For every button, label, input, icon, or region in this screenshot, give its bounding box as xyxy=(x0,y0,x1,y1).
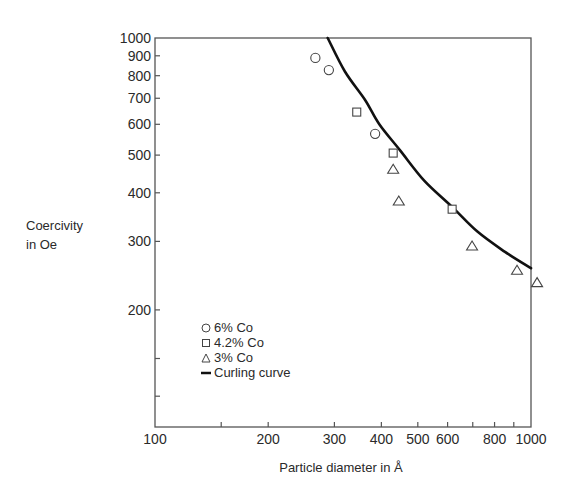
legend-item-6pct-co: 6% Co xyxy=(198,320,291,335)
circle-marker xyxy=(371,129,380,138)
chart-canvas: 2003004005006007008009001000 10020030040… xyxy=(0,0,582,496)
x-axis-label: Particle diameter in Å xyxy=(0,460,582,475)
y-tick-label: 700 xyxy=(128,90,152,106)
data-markers xyxy=(311,53,543,286)
y-tick-label: 1000 xyxy=(120,30,151,46)
y-axis-label-line1: Coercivity xyxy=(26,216,83,235)
legend-label: 4.2% Co xyxy=(214,335,264,350)
square-marker xyxy=(448,205,456,213)
x-tick-label: 600 xyxy=(436,431,460,447)
legend: 6% Co 4.2% Co 3% Co Curling curve xyxy=(198,320,291,380)
legend-item-3pct-co: 3% Co xyxy=(198,350,291,365)
circle-marker xyxy=(311,53,320,62)
y-tick-label: 800 xyxy=(128,68,152,84)
x-tick-label: 200 xyxy=(257,431,281,447)
x-tick-label: 1000 xyxy=(515,431,546,447)
y-axis-label-line2: in Oe xyxy=(26,235,83,254)
x-tick-label: 400 xyxy=(370,431,394,447)
triangle-marker xyxy=(393,196,404,205)
y-tick-label: 300 xyxy=(128,233,152,249)
x-tick-label: 500 xyxy=(406,431,430,447)
legend-item-4-2pct-co: 4.2% Co xyxy=(198,335,291,350)
square-marker xyxy=(389,149,397,157)
y-tick-label: 600 xyxy=(128,116,152,132)
y-tick-label: 200 xyxy=(128,302,152,318)
x-tick-label: 100 xyxy=(143,431,167,447)
curling-curve-line xyxy=(328,38,531,268)
x-tick-label: 300 xyxy=(323,431,347,447)
triangle-marker xyxy=(512,265,523,274)
legend-label: 3% Co xyxy=(214,350,253,365)
circle-marker xyxy=(324,65,333,74)
y-axis-label: Coercivity in Oe xyxy=(26,216,83,254)
triangle-marker xyxy=(467,241,478,250)
y-tick-label: 900 xyxy=(128,48,152,64)
square-marker xyxy=(353,108,361,116)
square-marker-icon xyxy=(198,338,214,348)
y-axis-ticks: 2003004005006007008009001000 xyxy=(120,30,160,396)
y-tick-label: 400 xyxy=(128,185,152,201)
legend-label: 6% Co xyxy=(214,320,253,335)
legend-label: Curling curve xyxy=(214,365,291,380)
triangle-marker xyxy=(532,278,543,287)
triangle-marker xyxy=(388,164,399,173)
y-tick-label: 500 xyxy=(128,147,152,163)
curling-curve-path xyxy=(328,38,531,268)
line-marker-icon xyxy=(198,368,214,378)
triangle-marker-icon xyxy=(198,353,214,363)
legend-item-curling-curve: Curling curve xyxy=(198,365,291,380)
circle-marker-icon xyxy=(198,323,214,333)
x-tick-label: 800 xyxy=(483,431,507,447)
x-axis-ticks: 1002003004005006008001000 xyxy=(143,422,546,447)
